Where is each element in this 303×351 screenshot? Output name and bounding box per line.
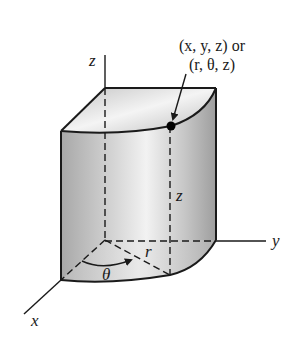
radius-label: r	[145, 243, 152, 260]
point-label-cartesian: (x, y, z) or	[152, 36, 272, 55]
cylindrical-coordinates-diagram: (x, y, z) or (r, θ, z) z y x z r θ	[0, 0, 303, 351]
x-axis-solid	[24, 280, 61, 314]
point-label-cylindrical: (r, θ, z)	[152, 55, 272, 74]
x-axis-label: x	[31, 312, 39, 329]
y-axis-label: y	[272, 232, 280, 249]
solid-wedge	[61, 88, 216, 282]
theta-label: θ	[102, 266, 110, 283]
point-marker	[167, 122, 176, 131]
height-label: z	[176, 187, 183, 204]
point-coordinates-label: (x, y, z) or (r, θ, z)	[152, 36, 272, 74]
z-axis-label: z	[89, 52, 96, 69]
